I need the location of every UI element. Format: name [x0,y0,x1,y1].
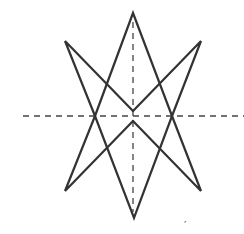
symmetry-axes [23,22,244,212]
prime-annotation-mark: ′ [184,220,187,231]
star-figure-diagram [0,0,244,234]
